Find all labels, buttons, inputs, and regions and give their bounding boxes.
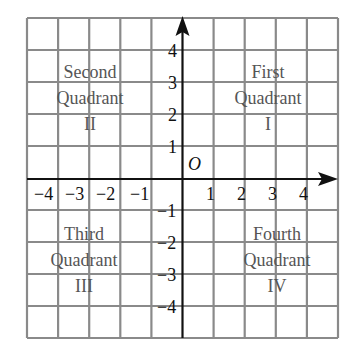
x-tick-label: −3 — [65, 184, 84, 204]
svg-text:Quadrant: Quadrant — [57, 88, 124, 108]
y-tick-label: −4 — [157, 297, 176, 317]
second-quadrant-label: Second Quadrant II — [57, 62, 124, 134]
coordinate-plane: O −4 −3 −2 −1 1 2 3 4 4 3 2 1 −1 −2 −3 −… — [0, 0, 360, 353]
svg-text:II: II — [84, 114, 96, 134]
x-tick-label: 2 — [237, 184, 246, 204]
svg-text:First: First — [251, 62, 284, 82]
y-tick-label: −2 — [157, 233, 176, 253]
fourth-quadrant-label: Fourth Quadrant IV — [244, 224, 311, 296]
y-tick-label: −1 — [157, 201, 176, 221]
svg-text:Quadrant: Quadrant — [244, 250, 311, 270]
svg-text:Third: Third — [64, 224, 104, 244]
svg-text:Quadrant: Quadrant — [235, 88, 302, 108]
svg-text:III: III — [75, 276, 93, 296]
x-tick-label: 3 — [268, 184, 277, 204]
svg-text:Second: Second — [64, 62, 117, 82]
x-tick-label: −2 — [96, 184, 115, 204]
svg-text:I: I — [265, 114, 271, 134]
origin-label: O — [188, 154, 201, 174]
x-tick-label: 1 — [206, 184, 215, 204]
y-tick-label: 3 — [168, 73, 177, 93]
y-tick-label: 2 — [168, 105, 177, 125]
svg-text:Quadrant: Quadrant — [51, 250, 118, 270]
x-tick-label: −4 — [34, 184, 53, 204]
y-tick-label: 4 — [168, 41, 177, 61]
y-tick-label: 1 — [168, 137, 177, 157]
x-tick-label: −1 — [130, 184, 149, 204]
y-tick-label: −3 — [157, 265, 176, 285]
svg-text:Fourth: Fourth — [253, 224, 301, 244]
x-tick-label: 4 — [299, 184, 308, 204]
third-quadrant-label: Third Quadrant III — [51, 224, 118, 296]
svg-text:IV: IV — [268, 276, 287, 296]
